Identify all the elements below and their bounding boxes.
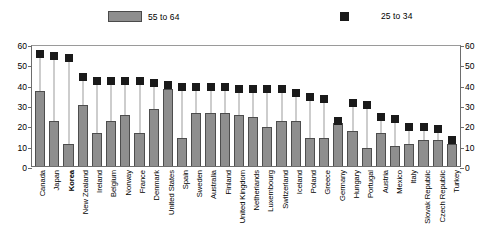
legend-label-square: 25 to 34	[381, 11, 413, 21]
chart-column	[360, 46, 374, 166]
stem-line	[281, 89, 282, 122]
bar-55-to-64	[276, 121, 286, 166]
bar-55-to-64	[63, 144, 73, 166]
x-label-column: Korea	[61, 168, 75, 251]
x-label-column: United Kingdom	[232, 168, 246, 251]
marker-25-to-34	[121, 77, 129, 85]
chart-column	[303, 46, 317, 166]
marker-25-to-34	[235, 85, 243, 93]
bar-55-to-64	[248, 117, 258, 166]
bar-55-to-64	[106, 121, 116, 166]
marker-25-to-34	[50, 52, 58, 60]
x-label-column: Finland	[217, 168, 231, 251]
x-label-column: Luxembourg	[260, 168, 274, 251]
x-label-column: Canada	[32, 168, 46, 251]
bar-55-to-64	[404, 144, 414, 166]
legend-label-bar: 55 to 64	[148, 12, 180, 22]
x-label-column: Netherlands	[246, 168, 260, 251]
x-label-column: France	[132, 168, 146, 251]
bar-55-to-64	[177, 138, 187, 166]
chart-column	[161, 46, 175, 166]
marker-25-to-34	[320, 95, 328, 103]
y-axis-tick-label: 20	[465, 123, 474, 132]
chart-column	[274, 46, 288, 166]
x-label-column: Hungary	[346, 168, 360, 251]
bar-55-to-64	[163, 89, 173, 166]
bar-55-to-64	[205, 113, 215, 166]
y-axis-tick-label: 0	[22, 164, 27, 173]
marker-25-to-34	[405, 123, 413, 131]
chart-column	[416, 46, 430, 166]
x-label-column: Turkey	[446, 168, 460, 251]
chart-column	[289, 46, 303, 166]
stem-line	[54, 56, 55, 121]
y-axis-tick-label: 30	[18, 103, 27, 112]
bar-55-to-64	[362, 148, 372, 166]
chart-column	[232, 46, 246, 166]
stem-line	[182, 87, 183, 138]
chart-column	[118, 46, 132, 166]
bar-55-to-64	[234, 115, 244, 166]
stem-line	[40, 54, 41, 91]
chart-column	[47, 46, 61, 166]
x-label-column: Spain	[175, 168, 189, 251]
y-axis-tick-label: 50	[465, 62, 474, 71]
marker-25-to-34	[192, 83, 200, 91]
tick-mark	[28, 127, 32, 128]
marker-25-to-34	[278, 85, 286, 93]
x-label-column: Mexico	[389, 168, 403, 251]
y-axis-tick-label: 10	[465, 144, 474, 153]
y-axis-tick-label: 10	[18, 144, 27, 153]
bar-55-to-64	[376, 133, 386, 166]
plot-area: 00101020203030404050506060	[31, 45, 461, 167]
marker-25-to-34	[107, 77, 115, 85]
chart-column	[76, 46, 90, 166]
bar-55-to-64	[390, 146, 400, 166]
stem-line	[111, 81, 112, 122]
stem-line	[267, 89, 268, 128]
stem-line	[82, 77, 83, 105]
y-axis-tick-label: 60	[465, 42, 474, 51]
y-axis-tick-label: 60	[18, 42, 27, 51]
bar-55-to-64	[78, 105, 88, 166]
chart-column	[33, 46, 47, 166]
chart-column	[388, 46, 402, 166]
x-label-column: Switzerland	[275, 168, 289, 251]
chart-column	[431, 46, 445, 166]
stem-line	[352, 103, 353, 131]
chart-column	[317, 46, 331, 166]
y-axis-tick-label: 30	[465, 103, 474, 112]
chart-column	[374, 46, 388, 166]
bar-55-to-64	[347, 131, 357, 166]
x-label-column: Japan	[46, 168, 60, 251]
bar-55-to-64	[418, 140, 428, 166]
x-label-column: Czech Republic	[431, 168, 445, 251]
chart-column	[246, 46, 260, 166]
x-label-column: Slovak Republic	[417, 168, 431, 251]
x-label-column: Norway	[118, 168, 132, 251]
chart-column	[203, 46, 217, 166]
stem-line	[295, 93, 296, 121]
x-label-column: Iceland	[289, 168, 303, 251]
bar-55-to-64	[220, 113, 230, 166]
marker-25-to-34	[207, 83, 215, 91]
stem-line	[324, 99, 325, 138]
chart-column	[90, 46, 104, 166]
marker-25-to-34	[334, 117, 342, 125]
marker-25-to-34	[164, 81, 172, 89]
marker-25-to-34	[36, 50, 44, 58]
bar-55-to-64	[134, 133, 144, 166]
chart-legend: 55 to 64 25 to 34	[0, 11, 495, 29]
tick-mark	[460, 127, 464, 128]
chart-column	[402, 46, 416, 166]
x-label-column: Australia	[203, 168, 217, 251]
y-axis-tick-label: 40	[465, 83, 474, 92]
bar-55-to-64	[92, 133, 102, 166]
chart-column	[147, 46, 161, 166]
stem-line	[253, 89, 254, 117]
tick-mark	[28, 148, 32, 149]
marker-25-to-34	[178, 83, 186, 91]
chart-column	[331, 46, 345, 166]
x-label-column: Greece	[317, 168, 331, 251]
legend-swatch-square-icon	[340, 12, 349, 21]
